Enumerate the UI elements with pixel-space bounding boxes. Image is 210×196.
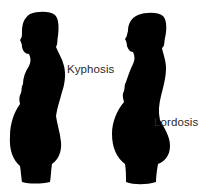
kyphosis-silhouette (10, 12, 65, 184)
kyphosis-label: Kyphosis (67, 63, 114, 75)
lordosis-label: Lordosis (154, 116, 198, 128)
posture-diagram (0, 0, 210, 196)
lordosis-silhouette (112, 13, 170, 184)
